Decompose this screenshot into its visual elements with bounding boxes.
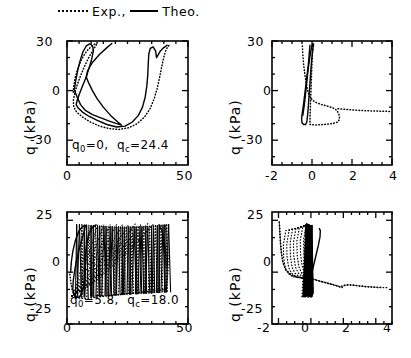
panel-bottom-right: q (kPa) 25 0 -25 -2 0 2 4: [205, 190, 411, 358]
legend-theo-label: Theo.: [162, 4, 200, 19]
panel-top-right: q (kPa) 30 0 -30 -2 0 2 4: [205, 25, 411, 190]
legend-exp-label: Exp.,: [92, 4, 126, 19]
plot-area-bottom-right: [205, 190, 411, 358]
panel-bottom-left: q (kPa) 25 0 -25 0 50 q0=5.8, qc=18.0: [0, 190, 205, 358]
legend: Exp., Theo.: [58, 1, 238, 21]
legend-theo-line-icon: [130, 10, 158, 12]
legend-exp-line-icon: [58, 10, 88, 12]
plot-area-top-left: [0, 25, 205, 190]
plot-area-bottom-left: [0, 190, 205, 358]
plot-area-top-right: [205, 25, 411, 190]
figure-root: Exp., Theo. q (kPa) 30 0 -30 0 50 q0=0, …: [0, 0, 411, 358]
panel-top-left: q (kPa) 30 0 -30 0 50 q0=0, qc=24.4: [0, 25, 205, 190]
